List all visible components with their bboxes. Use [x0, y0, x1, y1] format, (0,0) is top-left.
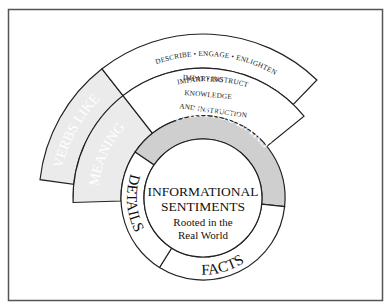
informational-sentiments-diagram: DESCRIBE • ENGAGE • ENLIGHTEN IMPART • I…	[0, 0, 389, 307]
center-title-line2: SENTIMENTS	[161, 199, 245, 214]
center-subtitle-line1: Rooted in the	[173, 216, 232, 228]
center-subtitle-line2: Real World	[178, 229, 228, 241]
center-title-line1: INFORMATIONAL	[148, 184, 259, 199]
